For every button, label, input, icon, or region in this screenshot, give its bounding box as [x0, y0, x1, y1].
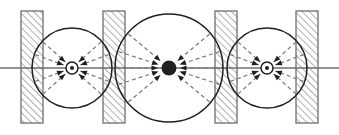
- rays-center-arrowhead-4: [154, 75, 161, 81]
- focus-left-dot: [70, 66, 74, 70]
- rays-center-arrowhead-0: [154, 55, 161, 61]
- rays-center-arrowhead-7: [180, 65, 187, 70]
- rays-right-arrowhead-1: [252, 60, 259, 65]
- rays-center-arrowhead-3: [152, 71, 159, 76]
- rays-center-arrowhead-6: [179, 60, 186, 65]
- diagram-figure: [0, 0, 339, 135]
- focus-right-dot: [265, 66, 269, 70]
- rays-center-arrowhead-5: [177, 55, 184, 61]
- diagram-canvas: [0, 0, 339, 135]
- rays-right-arrowhead-6: [275, 71, 282, 76]
- rays-left-arrowhead-2: [57, 71, 64, 76]
- rays-right-arrowhead-2: [252, 71, 259, 76]
- rays-center-arrowhead-1: [152, 60, 159, 65]
- rays-left-arrowhead-5: [80, 60, 87, 65]
- rays-left-arrowhead-1: [57, 60, 64, 65]
- plate-3-hatch-fill: [215, 11, 237, 123]
- plate-2-hatch-fill: [103, 11, 125, 123]
- focus-center: [162, 61, 177, 76]
- rays-center-arrowhead-2: [152, 65, 159, 70]
- rays-center-arrowhead-9: [177, 75, 184, 81]
- rays-left-arrowhead-6: [80, 71, 87, 76]
- rays-right-arrowhead-5: [275, 60, 282, 65]
- rays-center-arrowhead-8: [179, 71, 186, 76]
